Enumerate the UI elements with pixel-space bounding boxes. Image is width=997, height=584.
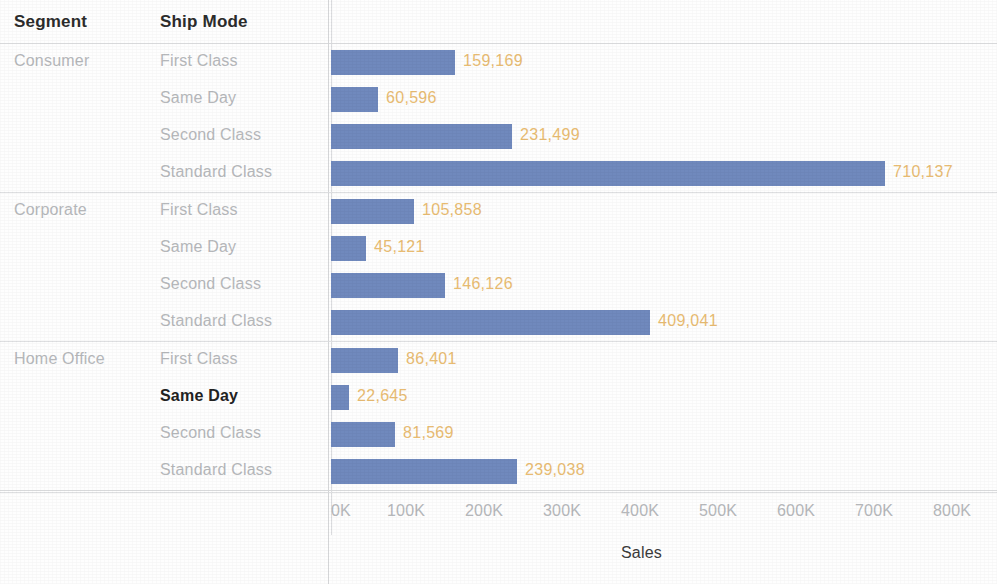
ship-mode-label[interactable]: Second Class (160, 275, 261, 293)
axis-tick: 500K (699, 502, 737, 520)
ship-mode-label[interactable]: First Class (160, 52, 238, 70)
bar[interactable] (331, 87, 378, 112)
table-row[interactable]: Second Class231,499 (0, 118, 997, 155)
table-row[interactable]: Second Class81,569 (0, 416, 997, 453)
chart-rows: ConsumerFirst Class159,169Same Day60,596… (0, 44, 997, 491)
ship-mode-label[interactable]: Second Class (160, 424, 261, 442)
bar-value-label: 710,137 (893, 163, 953, 181)
ship-mode-label[interactable]: Second Class (160, 126, 261, 144)
bar-value-label: 231,499 (520, 126, 580, 144)
axis-title-sales: Sales (621, 544, 662, 562)
ship-mode-label[interactable]: Standard Class (160, 461, 272, 479)
bar[interactable] (331, 124, 512, 149)
segment-label[interactable]: Consumer (14, 52, 89, 70)
ship-mode-label[interactable]: Same Day (160, 387, 238, 405)
segment-group: CorporateFirst Class105,858Same Day45,12… (0, 192, 997, 341)
bar[interactable] (331, 273, 445, 298)
bar[interactable] (331, 161, 885, 186)
bar[interactable] (331, 236, 366, 261)
bar[interactable] (331, 199, 414, 224)
bar-value-label: 22,645 (357, 387, 408, 405)
ship-mode-label[interactable]: Same Day (160, 238, 236, 256)
ship-mode-label[interactable]: First Class (160, 201, 238, 219)
bar[interactable] (331, 50, 455, 75)
table-row[interactable]: Standard Class409,041 (0, 304, 997, 341)
bar-value-label: 81,569 (403, 424, 454, 442)
bar-value-label: 146,126 (453, 275, 513, 293)
bar[interactable] (331, 348, 398, 373)
ship-mode-label[interactable]: Standard Class (160, 163, 272, 181)
table-row[interactable]: Same Day22,645 (0, 379, 997, 416)
bar[interactable] (331, 422, 395, 447)
axis-top-rule (0, 492, 997, 493)
table-row[interactable]: CorporateFirst Class105,858 (0, 193, 997, 230)
table-row[interactable]: Second Class146,126 (0, 267, 997, 304)
column-header-ship-mode: Ship Mode (160, 12, 325, 32)
table-row[interactable]: Same Day60,596 (0, 81, 997, 118)
axis-tick: 200K (465, 502, 503, 520)
column-header-segment: Segment (14, 12, 154, 32)
ship-mode-label[interactable]: First Class (160, 350, 238, 368)
table-row[interactable]: Standard Class710,137 (0, 155, 997, 192)
bar-value-label: 105,858 (422, 201, 482, 219)
table-header-row: Segment Ship Mode (0, 0, 997, 43)
bar-value-label: 86,401 (406, 350, 457, 368)
axis-tick: 600K (777, 502, 815, 520)
axis-tick: 100K (387, 502, 425, 520)
segment-group: Home OfficeFirst Class86,401Same Day22,6… (0, 341, 997, 491)
bar-value-label: 60,596 (386, 89, 437, 107)
segment-label[interactable]: Home Office (14, 350, 105, 368)
bar-value-label: 45,121 (374, 238, 425, 256)
ship-mode-label[interactable]: Standard Class (160, 312, 272, 330)
bar-chart-sheet: Segment Ship Mode ConsumerFirst Class159… (0, 0, 997, 584)
bar[interactable] (331, 310, 650, 335)
table-row[interactable]: Same Day45,121 (0, 230, 997, 267)
table-row[interactable]: Home OfficeFirst Class86,401 (0, 342, 997, 379)
axis-tick: 800K (933, 502, 971, 520)
segment-group: ConsumerFirst Class159,169Same Day60,596… (0, 44, 997, 192)
axis-tick: 400K (621, 502, 659, 520)
x-axis: 0K100K200K300K400K500K600K700K800K Sales (0, 492, 997, 584)
axis-tick: 300K (543, 502, 581, 520)
bar-value-label: 159,169 (463, 52, 523, 70)
axis-tick: 0K (331, 502, 351, 520)
ship-mode-label[interactable]: Same Day (160, 89, 236, 107)
table-row[interactable]: Standard Class239,038 (0, 453, 997, 490)
table-row[interactable]: ConsumerFirst Class159,169 (0, 44, 997, 81)
bar[interactable] (331, 459, 517, 484)
segment-label[interactable]: Corporate (14, 201, 87, 219)
bar[interactable] (331, 385, 349, 410)
bar-value-label: 239,038 (525, 461, 585, 479)
axis-tick: 700K (855, 502, 893, 520)
bar-value-label: 409,041 (658, 312, 718, 330)
